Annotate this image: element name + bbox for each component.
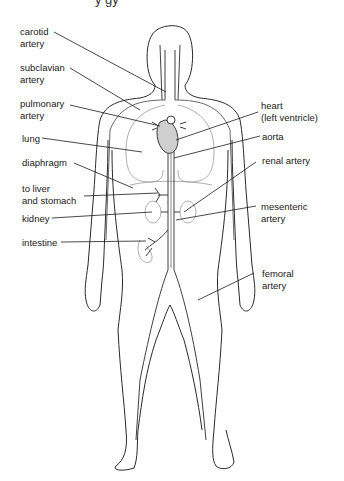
arteries <box>106 45 234 440</box>
label-line: carotid <box>20 26 49 38</box>
label-intestine: intestine <box>22 237 57 249</box>
label-mesenteric-artery: mesenteric artery <box>261 201 307 224</box>
label-line: pulmonary <box>20 98 64 110</box>
right-lung <box>178 105 214 182</box>
label-line: mesenteric <box>261 201 307 213</box>
label-line: renal artery <box>262 155 310 167</box>
label-line: artery <box>20 74 65 86</box>
label-diaphragm: diaphragm <box>22 157 67 169</box>
label-renal-artery: renal artery <box>262 155 310 167</box>
label-line: kidney <box>22 213 49 225</box>
label-aorta: aorta <box>262 131 284 143</box>
label-line: artery <box>20 38 49 50</box>
label-line: artery <box>262 280 294 292</box>
label-line: artery <box>20 110 64 122</box>
label-heart: heart (left ventricle) <box>261 100 318 123</box>
label-kidney: kidney <box>22 213 49 225</box>
label-line: heart <box>261 100 318 112</box>
label-subclavian-artery: subclavian artery <box>20 62 65 85</box>
label-pulmonary-artery: pulmonary artery <box>20 98 64 121</box>
label-lung: lung <box>22 133 40 145</box>
label-line: artery <box>261 213 307 225</box>
label-line: (left ventricle) <box>261 112 318 124</box>
heart-icon <box>152 116 186 153</box>
label-line: and stomach <box>22 195 76 207</box>
label-carotid-artery: carotid artery <box>20 26 49 49</box>
label-line: aorta <box>262 131 284 143</box>
label-line: femoral <box>262 268 294 280</box>
label-liver-stomach: to liver and stomach <box>22 183 76 206</box>
label-line: lung <box>22 133 40 145</box>
label-femoral-artery: femoral artery <box>262 268 294 291</box>
label-line: to liver <box>22 183 76 195</box>
kidney-right <box>180 201 196 223</box>
label-line: diaphragm <box>22 157 67 169</box>
label-line: subclavian <box>20 62 65 74</box>
label-line: intestine <box>22 237 57 249</box>
